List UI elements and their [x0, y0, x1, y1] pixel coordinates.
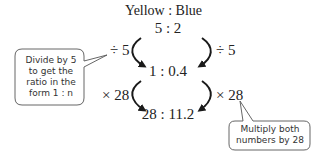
- multiply-op-left: × 28: [102, 87, 129, 104]
- left-callout-line: Divide by 5: [17, 55, 85, 66]
- right-callout-line: Multiply both: [229, 124, 311, 135]
- ratio-unit-form: 1 : 0.4: [118, 63, 218, 80]
- left-callout-text: Divide by 5 to get the ratio in the form…: [17, 55, 85, 99]
- multiply-op-right: × 28: [216, 87, 243, 104]
- ratio-original: 5 : 2: [118, 20, 218, 37]
- ratio-scaled: 28 : 11.2: [118, 106, 218, 123]
- right-callout-text: Multiply both numbers by 28: [229, 124, 311, 146]
- left-callout-line: ratio in the: [17, 77, 85, 88]
- divide-op-left: ÷ 5: [110, 42, 129, 59]
- arrow-right-step1: [200, 38, 211, 66]
- left-callout-line: form 1 : n: [17, 88, 85, 99]
- right-callout-line: numbers by 28: [229, 135, 311, 146]
- left-callout-line: to get the: [17, 66, 85, 77]
- divide-op-right: ÷ 5: [216, 42, 235, 59]
- diagram-title: Yellow : Blue: [0, 3, 323, 19]
- arrow-left-step1: [132, 38, 144, 66]
